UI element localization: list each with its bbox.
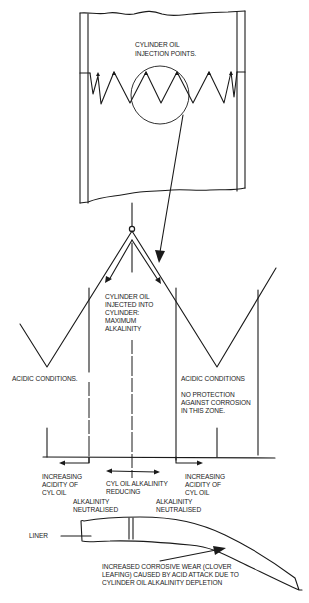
label-line: CYL OIL [185, 489, 210, 496]
label-line: ACIDIC CONDITIONS. [12, 375, 78, 382]
label-line: IN THIS ZONE. [181, 407, 225, 414]
no-protection-label: NO PROTECTION AGAINST CORROSION IN THIS … [181, 391, 252, 414]
wear-arrow-line [160, 550, 216, 561]
cylinder-bottom-edge [80, 188, 245, 203]
label-line: CYLINDER OIL ALKALINITY DEPLETION [102, 579, 223, 586]
liner-label: LINER [29, 532, 48, 539]
arrow-left-acidity-head-icon [59, 461, 65, 466]
label-line: INJECTION POINTS. [135, 50, 197, 57]
label-line: ALKALINITY [105, 325, 142, 332]
injection-points-label: CYLINDER OIL INJECTION POINTS. [135, 41, 197, 57]
right-acidic-label: ACIDIC CONDITIONS [181, 375, 246, 382]
cylinder-section: CYLINDER OIL INJECTION POINTS. [80, 11, 245, 203]
label-line: NEUTRALISED [156, 506, 201, 513]
arrow-reducing [110, 471, 156, 472]
neutralised-left-label: ALKALINITY NEUTRALISED [73, 498, 118, 513]
reducing-label: CYL OIL ALKALINITY REDUCING [106, 480, 169, 495]
injection-point-icon [112, 71, 116, 75]
label-line: ACIDITY OF [42, 481, 78, 488]
spread-arrow-left [109, 240, 132, 280]
arrow-left-acidity [62, 457, 89, 463]
label-line: CYLINDER OIL [105, 293, 150, 300]
alkalinity-profile: CYLINDER OIL INJECTED INTO CYLINDER: MAX… [12, 203, 276, 513]
label-line: INCREASING [185, 473, 225, 480]
label-line: REDUCING [106, 488, 140, 495]
increasing-acidity-right-label: INCREASING ACIDITY OF CYL OIL [185, 473, 227, 496]
label-line: AGAINST CORROSION [181, 399, 251, 406]
label-line: NO PROTECTION [181, 391, 235, 398]
cylinder-top-edge [80, 11, 245, 16]
injection-point-icon [144, 71, 148, 75]
callout-arrowhead-icon [155, 250, 165, 263]
wear-label: INCREASED CORROSIVE WEAR (CLOVER LEAFING… [102, 563, 241, 586]
label-line: ALKALINITY [73, 498, 110, 505]
injection-point-icon [96, 72, 100, 76]
label-line: MAXIMUM [105, 317, 136, 324]
neutralised-right-label: ALKALINITY NEUTRALISED [156, 498, 201, 513]
label-line: NEUTRALISED [73, 506, 118, 513]
label-line: ALKALINITY [156, 498, 193, 505]
label-line: INCREASING [42, 473, 82, 480]
spread-arrow-right-head-icon [155, 277, 161, 284]
center-label: CYLINDER OIL INJECTED INTO CYLINDER: MAX… [105, 293, 155, 332]
injection-point-icon [229, 71, 233, 75]
left-acidic-label: ACIDIC CONDITIONS. [12, 375, 78, 382]
oil-distribution-zigzag [90, 72, 237, 104]
injection-points [96, 71, 233, 76]
injection-point-icon [207, 71, 211, 75]
label-line: CYL OIL [42, 489, 67, 496]
profile-right-v [132, 231, 276, 367]
spread-arrow-right [132, 240, 158, 280]
label-line: INJECTED INTO [105, 301, 153, 308]
arrow-reducing-left-head-icon [106, 469, 112, 474]
label-line: LEAFING) CAUSED BY ACID ATTACK DUE TO [102, 571, 239, 579]
label-line: INCREASED CORROSIVE WEAR (CLOVER [102, 563, 232, 571]
liner-section: LINER INCREASED CORROSIVE WEAR (CLOVER L… [29, 517, 302, 590]
label-line: ACIDIC CONDITIONS [181, 375, 246, 382]
label-line: CYLINDER OIL [135, 41, 180, 48]
arrow-right-acidity-head-icon [197, 461, 203, 466]
cylinder-oil-diagram: CYLINDER OIL INJECTION POINTS. [0, 0, 309, 603]
magnify-circle [131, 66, 189, 124]
increasing-acidity-left-label: INCREASING ACIDITY OF CYL OIL [42, 473, 84, 496]
arrow-reducing-right-head-icon [154, 470, 160, 475]
label-line: ACIDITY OF [185, 481, 221, 488]
label-line: CYL OIL ALKALINITY [106, 480, 169, 487]
callout-arrow-line [160, 115, 183, 252]
baseline [43, 457, 275, 458]
label-line: CYLINDER: [105, 309, 140, 316]
wear-arrowhead-icon [213, 546, 226, 555]
